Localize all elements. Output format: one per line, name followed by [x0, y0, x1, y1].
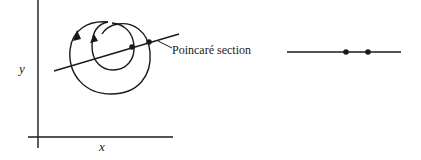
intersection-point-1 — [129, 44, 135, 50]
section-point-1 — [343, 49, 349, 55]
section-point-2 — [365, 49, 371, 55]
inner-orbit — [92, 22, 134, 70]
label-leader — [158, 41, 172, 48]
poincare-diagram: y x Poincaré section — [0, 0, 421, 160]
outer-orbit — [70, 22, 150, 94]
inner-arrow-icon — [90, 34, 98, 43]
y-axis-label: y — [17, 61, 25, 76]
intersection-point-2 — [146, 39, 152, 45]
x-axis-label: x — [98, 139, 105, 154]
section-label: Poincaré section — [172, 43, 251, 57]
